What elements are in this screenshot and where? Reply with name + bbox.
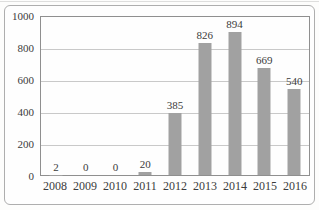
x-tick-label: 2010 (100, 179, 130, 194)
chart-figure: 02004006008001000 20020385826894669540 2… (0, 0, 319, 210)
bar-value-label: 20 (140, 158, 151, 170)
x-tick-label: 2009 (70, 179, 100, 194)
bar (228, 32, 241, 175)
bar-slot: 540 (279, 17, 309, 175)
bar-value-label: 0 (113, 161, 119, 173)
bar-value-label: 669 (256, 54, 273, 66)
bar-slot: 2 (41, 17, 71, 175)
bar-slot: 0 (71, 17, 101, 175)
x-tick-label: 2013 (190, 179, 220, 194)
y-tick-label: 600 (18, 74, 35, 86)
bar (198, 43, 211, 175)
x-tick-label: 2011 (130, 179, 160, 194)
bar-value-label: 540 (286, 75, 303, 87)
y-tick-label: 400 (18, 106, 35, 118)
y-axis: 02004006008001000 (2, 16, 36, 176)
bar-slot: 894 (220, 17, 250, 175)
bar-value-label: 385 (167, 99, 184, 111)
bar (139, 172, 152, 175)
bar-slot: 20 (130, 17, 160, 175)
bar-slot: 669 (249, 17, 279, 175)
x-tick-label: 2015 (250, 179, 280, 194)
bar-value-label: 894 (226, 18, 243, 30)
y-tick-label: 1000 (12, 10, 34, 22)
plot-area: 20020385826894669540 (40, 16, 310, 176)
y-tick-label: 800 (18, 42, 35, 54)
bar-slot: 826 (190, 17, 220, 175)
bar (258, 68, 271, 175)
bar (288, 89, 301, 175)
x-tick-label: 2008 (40, 179, 70, 194)
bar-slot: 0 (101, 17, 131, 175)
x-tick-label: 2014 (220, 179, 250, 194)
bar-value-label: 2 (53, 161, 59, 173)
bar-slot: 385 (160, 17, 190, 175)
bar-value-label: 0 (83, 161, 89, 173)
y-tick-label: 0 (29, 170, 35, 182)
x-tick-label: 2016 (280, 179, 310, 194)
scan-artifact-line (0, 1, 319, 2)
x-axis: 200820092010201120122013201420152016 (40, 179, 310, 194)
bar-series: 20020385826894669540 (41, 17, 309, 175)
bar-value-label: 826 (197, 29, 214, 41)
x-tick-label: 2012 (160, 179, 190, 194)
bar (169, 113, 182, 175)
y-tick-label: 200 (18, 138, 35, 150)
